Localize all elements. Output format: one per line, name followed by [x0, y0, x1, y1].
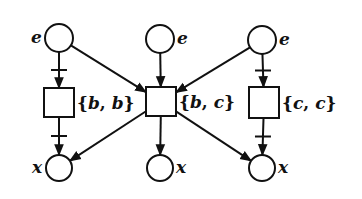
place-label: e [31, 27, 42, 47]
transition-label: {c, c} [282, 93, 336, 113]
place-p_bot_mid: x [147, 155, 187, 181]
arrow-icon [160, 116, 161, 155]
transition-box-icon [146, 87, 176, 116]
arrow-icon [176, 47, 250, 92]
arc-t_mid-to-p_bot_mid [160, 116, 161, 155]
transition-t_right: {c, c} [249, 87, 336, 118]
arrow-icon [70, 111, 146, 161]
place-p_top_mid: e [146, 25, 188, 53]
arc-p_top_left-to-t_mid [71, 45, 146, 92]
place-label: x [31, 157, 43, 177]
transition-t_left: {b, b} [44, 88, 135, 117]
arc-p_top_left-to-t_left [51, 52, 67, 88]
place-label: x [175, 157, 187, 177]
place-circle-icon [45, 24, 73, 52]
transition-box-icon [249, 87, 279, 118]
place-label: e [177, 28, 188, 48]
place-p_bot_left: x [31, 155, 72, 181]
place-p_top_left: e [31, 24, 73, 52]
place-circle-icon [146, 25, 174, 53]
place-circle-icon [147, 155, 173, 181]
arc-t_left-to-p_bot_left [51, 117, 67, 155]
transition-t_mid: {b, c} [146, 87, 235, 116]
transitions: {b, b}{b, c}{c, c} [44, 87, 336, 118]
place-label: e [279, 29, 290, 49]
place-circle-icon [249, 155, 275, 181]
place-circle-icon [248, 26, 276, 54]
place-p_bot_right: x [249, 155, 289, 181]
arc-t_right-to-p_bot_right [255, 118, 271, 155]
transition-box-icon [44, 88, 74, 117]
petri-net-diagram: eeexxx {b, b}{b, c}{c, c} [0, 0, 362, 199]
transition-label: {b, b} [77, 93, 135, 113]
place-p_top_right: e [248, 26, 290, 54]
arrow-icon [176, 111, 251, 160]
place-label: x [277, 157, 289, 177]
arc-p_top_mid-to-t_mid [160, 53, 161, 87]
arc-p_top_right-to-t_mid [176, 47, 250, 92]
arrow-icon [160, 53, 161, 87]
transition-label: {b, c} [179, 92, 235, 112]
arc-p_top_right-to-t_right [255, 54, 271, 87]
arc-t_mid-to-p_bot_left [70, 111, 146, 161]
arc-t_mid-to-p_bot_right [176, 111, 251, 160]
place-circle-icon [46, 155, 72, 181]
arrow-icon [71, 45, 146, 92]
